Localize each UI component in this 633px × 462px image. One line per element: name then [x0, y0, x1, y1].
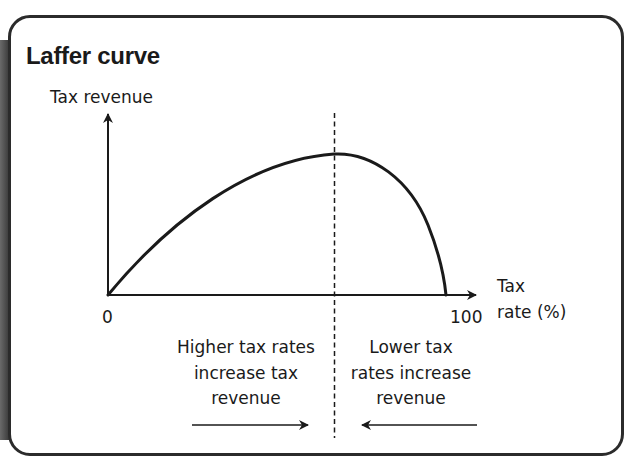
- x-tick-max: 100: [450, 309, 482, 326]
- annotation-line: Lower tax: [338, 335, 484, 361]
- annotation-line: rates increase: [338, 361, 484, 387]
- x-axis-label: Tax rate (%): [497, 273, 566, 325]
- annotation-line: increase tax: [160, 361, 332, 387]
- x-tick-min: 0: [102, 309, 113, 326]
- x-axis-label-line2: rate (%): [497, 299, 566, 325]
- x-axis-label-line1: Tax: [497, 273, 566, 299]
- annotation-lower-rates: Lower tax rates increase revenue: [338, 335, 484, 412]
- annotation-line: revenue: [160, 386, 332, 412]
- annotation-line: Higher tax rates: [160, 335, 332, 361]
- annotation-higher-rates: Higher tax rates increase tax revenue: [160, 335, 332, 412]
- annotation-line: revenue: [338, 386, 484, 412]
- laffer-curve-line: [108, 154, 446, 295]
